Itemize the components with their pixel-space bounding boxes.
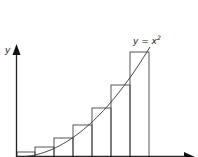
y-axis-arrow-icon — [13, 44, 21, 55]
curve-label: y = x2 — [132, 34, 161, 46]
rectangles — [17, 52, 149, 157]
riemann-rectangle — [130, 52, 149, 157]
riemann-sum-diagram: y y = x2 — [0, 0, 198, 157]
riemann-rectangle — [111, 85, 130, 157]
y-axis-label: y — [4, 45, 11, 55]
riemann-rectangle — [92, 108, 111, 157]
x-axis-arrow-icon — [184, 152, 195, 157]
